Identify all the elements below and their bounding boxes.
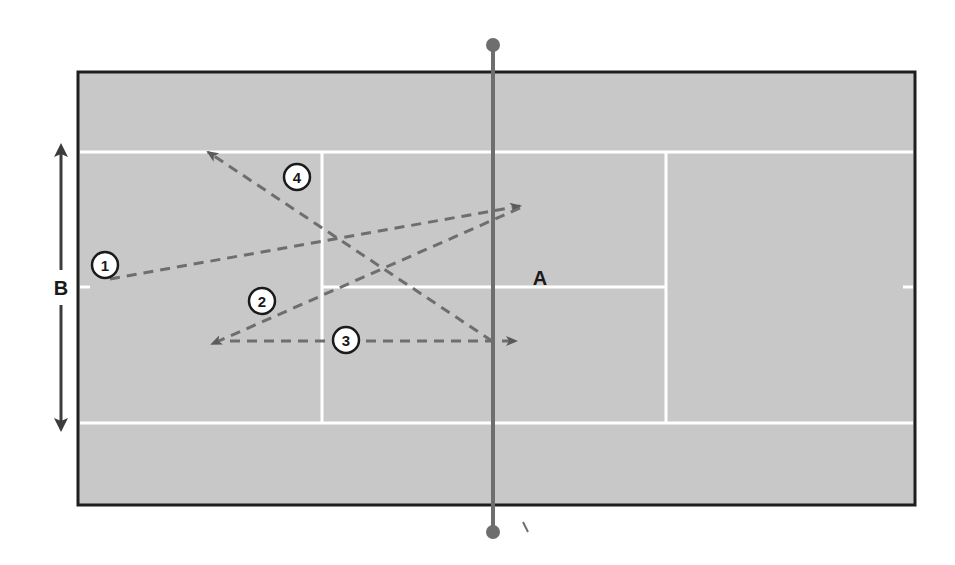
net-post-top [486,38,500,52]
shot-badge-3: 3 [333,327,359,353]
shot-badge-1: 1 [92,252,118,278]
shot-badge-4: 4 [284,164,310,190]
shot-badge-2-label: 2 [258,293,266,310]
tennis-court-diagram: B A 1 2 3 4 [0,0,955,565]
shot-badge-1-label: 1 [101,257,109,274]
shot-badge-3-label: 3 [342,332,350,349]
net-post-bottom [486,525,500,539]
net-position-label: A [533,267,547,289]
dimension-b-label: B [54,277,68,299]
stray-mark [523,522,528,532]
shot-badge-2: 2 [249,288,275,314]
shot-badge-4-label: 4 [293,169,302,186]
